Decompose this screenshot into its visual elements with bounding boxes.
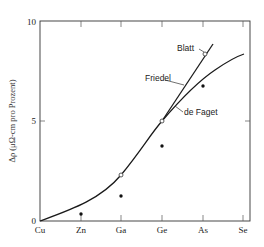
x-tick-zn: Zn xyxy=(76,225,86,235)
x-tick-ge: Ge xyxy=(157,225,168,235)
experiment-points xyxy=(79,84,204,215)
x-tick-cu: Cu xyxy=(35,225,46,235)
annotation-blatt: Blatt xyxy=(177,43,195,53)
x-tick-se: Se xyxy=(239,225,248,235)
y-tick-5: 5 xyxy=(32,116,37,126)
x-tick-ga: Ga xyxy=(116,225,127,235)
chart: 0 5 10 Cu Zn Ga Ge As Se Δρ (μΩ-cm pro P… xyxy=(0,0,264,247)
plot-frame xyxy=(40,21,250,221)
y-axis-title: Δρ (μΩ-cm pro Prozent) xyxy=(7,79,17,162)
y-tick-10: 10 xyxy=(27,17,37,27)
x-tick-as: As xyxy=(198,225,208,235)
defaget-leader xyxy=(175,106,183,112)
blatt-leader xyxy=(199,49,204,52)
annotation-friedel: Friedel xyxy=(145,73,171,83)
defaget-curve xyxy=(40,54,244,221)
annotation-defaget: de Faget xyxy=(184,107,218,117)
